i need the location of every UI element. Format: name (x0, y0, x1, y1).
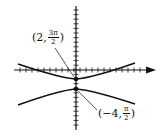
point-upper (74, 77, 79, 82)
x-axis-arrow-icon (146, 67, 156, 74)
leader-line-upper (55, 48, 74, 77)
polar-graph (0, 0, 160, 140)
label-prefix: (−4, (98, 108, 122, 119)
leader-line-lower (78, 91, 97, 110)
label-prefix: (2, (32, 32, 47, 43)
point-label-upper: (2, 3π 2 ) (32, 29, 64, 46)
fraction: π 2 (123, 105, 130, 122)
label-suffix: ) (131, 108, 135, 119)
point-label-lower: (−4, π 2 ) (98, 105, 135, 122)
label-suffix: ) (60, 32, 64, 43)
fraction: 3π 2 (48, 29, 59, 46)
point-lower (74, 87, 79, 92)
